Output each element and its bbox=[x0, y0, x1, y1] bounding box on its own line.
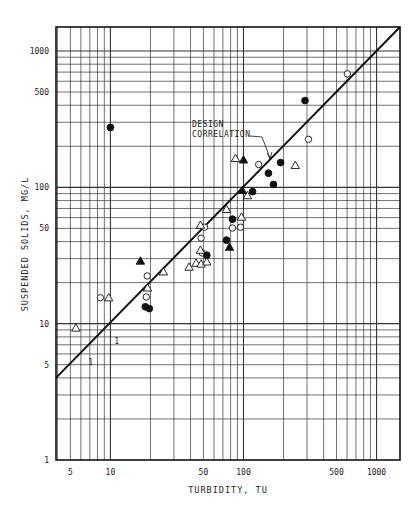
filled-circle-marker bbox=[107, 124, 114, 131]
x-tick-label: 10 bbox=[106, 468, 116, 477]
filled-triangle-marker bbox=[239, 156, 247, 163]
scatter-chart: 510501005001000 1510501005001000 TURBIDI… bbox=[0, 0, 420, 517]
correlation-line bbox=[56, 27, 400, 378]
y-tick-label: 1000 bbox=[30, 47, 49, 56]
x-tick-label: 500 bbox=[329, 468, 344, 477]
y-tick-label: 10 bbox=[39, 320, 49, 329]
open-circle-marker bbox=[97, 295, 103, 301]
filled-triangle-marker bbox=[136, 257, 144, 264]
annotation-text: CORRELATION bbox=[192, 130, 250, 139]
slope-run-label: 1 bbox=[88, 358, 93, 367]
design-correlation-line bbox=[56, 27, 400, 378]
annotation-text: DESIGN bbox=[192, 120, 224, 129]
open-circle-marker bbox=[305, 136, 311, 142]
open-triangle-marker bbox=[237, 213, 245, 220]
annotation-leader bbox=[250, 136, 270, 158]
x-axis-label: TURBIDITY, TU bbox=[188, 485, 268, 495]
x-axis-ticks: 510501005001000 bbox=[68, 468, 386, 477]
filled-circle-marker bbox=[265, 170, 272, 177]
y-axis-ticks: 1510501005001000 bbox=[30, 47, 49, 465]
x-tick-label: 1000 bbox=[367, 468, 386, 477]
x-tick-label: 100 bbox=[236, 468, 251, 477]
open-triangle-marker bbox=[72, 324, 80, 331]
y-tick-label: 50 bbox=[39, 224, 49, 233]
open-triangle-marker bbox=[231, 154, 239, 161]
open-circle-marker bbox=[229, 225, 235, 231]
filled-circle-marker bbox=[146, 305, 153, 312]
filled-circle-marker bbox=[223, 237, 230, 244]
filled-circle-marker bbox=[229, 216, 236, 223]
open-circle-marker bbox=[237, 224, 243, 230]
filled-circle-marker bbox=[302, 97, 309, 104]
open-circle-marker bbox=[144, 273, 150, 279]
y-tick-label: 500 bbox=[35, 88, 50, 97]
filled-circle-marker bbox=[249, 188, 256, 195]
open-circle-marker bbox=[255, 161, 261, 167]
slope-rise-label: 1 bbox=[114, 337, 119, 346]
y-tick-label: 1 bbox=[44, 456, 49, 465]
y-tick-label: 100 bbox=[35, 183, 50, 192]
x-tick-label: 50 bbox=[199, 468, 209, 477]
y-axis-label: SUSPENDED SOLIDS, MG/L bbox=[20, 177, 30, 312]
filled-triangle-marker bbox=[225, 243, 233, 250]
open-circle-marker bbox=[344, 71, 350, 77]
y-tick-label: 5 bbox=[44, 361, 49, 370]
open-circle-marker bbox=[143, 294, 149, 300]
x-tick-label: 5 bbox=[68, 468, 73, 477]
open-triangle-marker bbox=[291, 161, 299, 168]
filled-circle-marker bbox=[270, 181, 277, 188]
open-triangle-marker bbox=[104, 294, 112, 301]
filled-circle-marker bbox=[277, 159, 284, 166]
open-circle-marker bbox=[198, 235, 204, 241]
